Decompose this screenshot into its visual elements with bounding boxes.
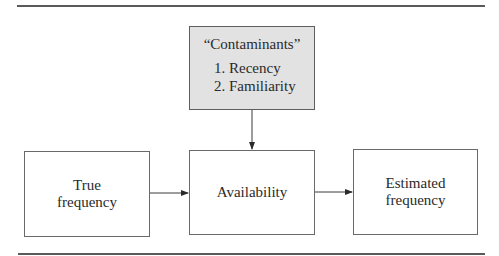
connector-arrows	[0, 0, 499, 256]
